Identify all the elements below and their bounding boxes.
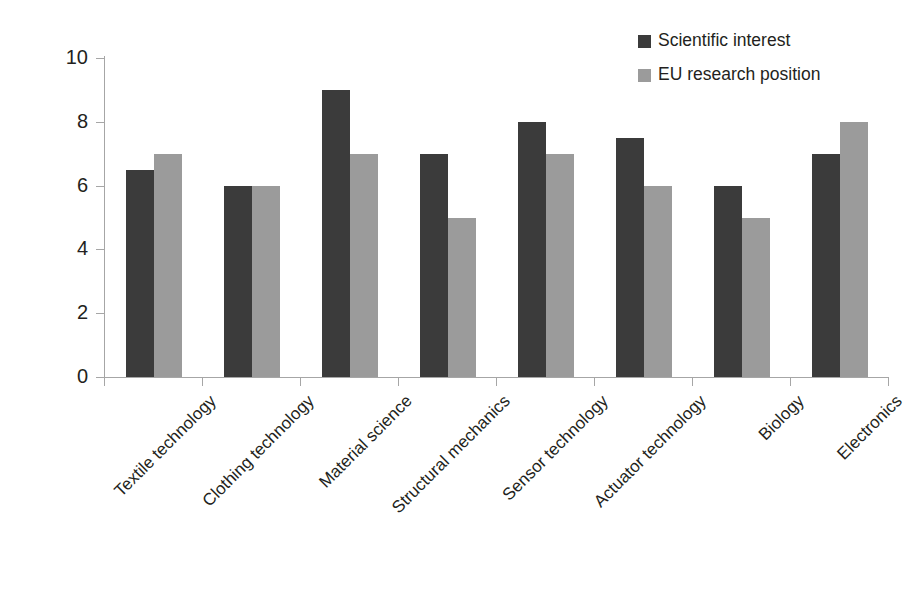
y-axis-tick — [96, 249, 104, 250]
legend-item-scientific-interest: Scientific interest — [638, 24, 820, 58]
x-axis-category-label: Electronics — [834, 392, 905, 463]
x-axis-tick — [104, 377, 105, 386]
y-axis-tick-label: 8 — [40, 111, 88, 131]
bar — [448, 218, 476, 378]
x-axis-tick — [692, 377, 693, 386]
bar — [126, 170, 154, 377]
x-axis-tick — [202, 377, 203, 386]
bar — [420, 154, 448, 377]
y-axis-tick-label: 2 — [40, 302, 88, 322]
x-axis-category-label: Clothing technology — [199, 392, 317, 510]
x-axis-category-label: Biology — [756, 392, 807, 443]
bar — [714, 186, 742, 377]
x-axis-category-label: Actuator technology — [591, 392, 709, 510]
bar-chart: Scientific interest EU research position… — [0, 0, 921, 595]
bar — [840, 122, 868, 377]
x-axis-category-label: Sensor technology — [499, 392, 611, 504]
x-axis-tick — [398, 377, 399, 386]
bar — [322, 90, 350, 377]
bar — [224, 186, 252, 377]
x-axis-tick — [496, 377, 497, 386]
y-axis-tick-label: 6 — [40, 175, 88, 195]
y-axis-tick — [96, 122, 104, 123]
bar — [546, 154, 574, 377]
bar — [518, 122, 546, 377]
y-axis-tick — [96, 58, 104, 59]
x-axis-tick — [594, 377, 595, 386]
plot-area — [104, 58, 888, 377]
x-axis-tick — [888, 377, 889, 386]
y-axis-tick-label: 10 — [40, 47, 88, 67]
y-axis-tick-label: 4 — [40, 238, 88, 258]
bar — [350, 154, 378, 377]
y-axis-tick — [96, 313, 104, 314]
x-axis-tick — [790, 377, 791, 386]
x-axis-tick — [300, 377, 301, 386]
bar — [616, 138, 644, 377]
y-axis-tick — [96, 377, 104, 378]
bar — [252, 186, 280, 377]
x-axis-category-label: Material science — [316, 392, 415, 491]
x-axis-category-label: Textile technology — [111, 392, 219, 500]
bar — [742, 218, 770, 378]
y-axis-tick — [96, 186, 104, 187]
y-axis-tick-label: 0 — [40, 366, 88, 386]
bar — [644, 186, 672, 377]
legend-label-scientific-interest: Scientific interest — [658, 32, 790, 50]
bar — [154, 154, 182, 377]
legend-swatch-scientific-interest — [638, 35, 651, 48]
bar — [812, 154, 840, 377]
